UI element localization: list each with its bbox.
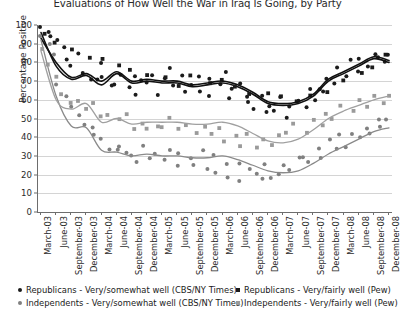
x-axis-tick-mark: [343, 212, 344, 215]
data-point-square: [370, 65, 374, 69]
x-axis-tick-label: March-05: [164, 216, 174, 255]
data-point-circle: [377, 118, 381, 122]
data-point-circle: [308, 87, 312, 91]
x-axis-tick-mark: [373, 212, 374, 215]
data-point-square: [279, 94, 283, 98]
data-point-circle: [378, 125, 382, 129]
data-point-circle: [128, 85, 132, 89]
data-point-circle: [237, 161, 241, 165]
data-point-circle: [225, 162, 229, 166]
legend-item[interactable]: Independents - Very/somewhat well (CBS/N…: [18, 298, 236, 308]
data-point-circle: [99, 61, 103, 65]
data-point-circle: [171, 84, 175, 88]
data-point-circle: [77, 113, 81, 117]
data-point-circle: [287, 168, 291, 172]
series-layer: [38, 25, 392, 212]
data-point-square: [291, 122, 295, 126]
data-point-circle: [335, 66, 339, 70]
data-point-square: [91, 101, 95, 105]
data-point-circle: [112, 82, 116, 86]
x-axis-tick-mark: [237, 212, 238, 215]
data-point-square: [88, 56, 92, 60]
x-axis-tick-label: March-06: [225, 216, 235, 255]
trend-line: [41, 40, 389, 173]
x-axis-tick-mark: [388, 212, 389, 215]
x-axis-tick-label: June-04: [119, 216, 129, 248]
x-axis-tick-label: September-03: [74, 216, 84, 275]
x-axis-tick-label: September-04: [134, 216, 144, 275]
legend-square-icon: [236, 288, 240, 292]
data-point-circle: [305, 105, 309, 109]
data-point-circle: [313, 98, 317, 102]
x-axis-tick-label: December-06: [270, 216, 280, 272]
data-point-square: [247, 92, 251, 96]
data-point-square: [145, 73, 149, 77]
data-point-square: [284, 131, 288, 135]
y-axis-tick-label: 50: [21, 114, 32, 124]
data-point-circle: [198, 89, 202, 93]
data-point-circle: [117, 144, 121, 148]
y-axis-tick-label: 30: [21, 151, 32, 161]
data-point-square: [360, 71, 364, 75]
data-point-circle: [107, 147, 111, 151]
x-axis-tick-mark: [176, 212, 177, 215]
data-point-square: [125, 112, 129, 116]
data-point-circle: [285, 116, 289, 120]
data-point-circle: [365, 126, 369, 130]
data-point-circle: [68, 64, 72, 68]
data-point-square: [43, 32, 47, 36]
data-point-square: [117, 63, 121, 67]
legend-label: Independents - Very/fairly well (Pew): [244, 298, 398, 308]
data-point-circle: [248, 167, 252, 171]
y-axis-tick-label: 100: [16, 20, 32, 30]
data-point-circle: [91, 125, 95, 129]
x-axis-tick-mark: [101, 212, 102, 215]
data-point-circle: [207, 94, 211, 98]
y-axis-tick-label: 80: [21, 57, 32, 67]
x-axis-tick-label: September-07: [316, 216, 326, 275]
data-point-circle: [207, 77, 211, 81]
data-point-square: [358, 98, 362, 102]
data-point-square: [352, 109, 356, 113]
x-axis-tick-mark: [70, 212, 71, 215]
data-point-circle: [69, 105, 73, 109]
x-axis-tick-label: September-06: [255, 216, 265, 275]
data-point-circle: [255, 172, 259, 176]
x-axis-tick-label: June-06: [240, 216, 250, 248]
plot-area: [37, 25, 392, 213]
data-point-circle: [356, 70, 360, 74]
x-axis-tick-label: March-04: [104, 216, 114, 255]
x-axis-tick-label: December-05: [210, 216, 220, 272]
data-point-circle: [116, 148, 120, 152]
data-point-circle: [48, 42, 52, 46]
legend-item[interactable]: Republicans - Very/fairly well (Pew): [236, 285, 398, 295]
data-point-circle: [38, 25, 42, 29]
data-point-circle: [183, 90, 187, 94]
data-point-circle: [65, 57, 69, 61]
x-axis-tick-mark: [40, 212, 41, 215]
legend-item[interactable]: Independents - Very/fairly well (Pew): [236, 298, 398, 308]
data-point-circle: [100, 75, 104, 79]
data-point-square: [195, 131, 199, 135]
data-point-circle: [176, 151, 180, 155]
x-axis-tick-mark: [327, 212, 328, 215]
data-point-circle: [321, 90, 325, 94]
data-point-square: [156, 125, 160, 129]
data-point-circle: [272, 109, 276, 113]
chart-title: Evaluations of How Well the War in Iraq …: [0, 0, 395, 9]
legend-item[interactable]: Republicans - Very/somewhat well (CBS/NY…: [18, 285, 236, 295]
data-point-square: [46, 63, 50, 67]
data-point-circle: [306, 160, 310, 164]
trend-line: [41, 38, 389, 103]
data-point-square: [177, 127, 181, 131]
data-point-circle: [350, 132, 354, 136]
data-point-square: [270, 143, 274, 147]
x-axis-tick-label: June-08: [361, 216, 371, 248]
data-point-circle: [54, 83, 58, 87]
x-axis-tick-mark: [146, 212, 147, 215]
data-point-circle: [213, 171, 217, 175]
data-point-square: [266, 91, 270, 95]
data-point-square: [59, 92, 63, 96]
data-point-circle: [148, 156, 152, 160]
x-axis-tick-label: June-05: [180, 216, 190, 248]
